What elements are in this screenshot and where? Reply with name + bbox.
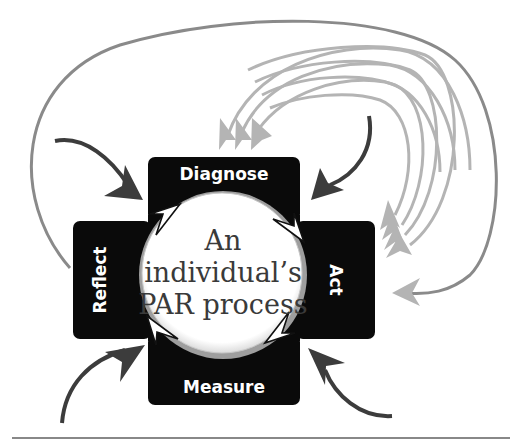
input-arrow-bottom-right: [308, 348, 392, 416]
feedback-arrowheads-act: [380, 200, 412, 258]
par-process-diagram: Diagnose Measure Reflect Act An individu…: [0, 0, 528, 446]
arrowhead-icon: [251, 118, 272, 150]
arrowhead-icon: [235, 118, 252, 150]
outer-loop-arrowhead-icon: [392, 278, 420, 306]
footer-divider: [12, 437, 510, 439]
stage-label-diagnose: Diagnose: [179, 164, 268, 184]
stage-label-measure: Measure: [183, 377, 265, 397]
input-arrow-bottom-left: [62, 345, 145, 423]
input-arrow-top-left: [55, 140, 143, 200]
stage-label-act: Act: [326, 264, 346, 295]
input-arrow-top-right: [311, 116, 370, 200]
center-title-line-1: An: [204, 225, 242, 256]
center-title-line-2: individual’s: [144, 257, 302, 288]
center-title-line-3: PAR process: [138, 289, 307, 320]
stage-label-reflect: Reflect: [90, 247, 110, 314]
